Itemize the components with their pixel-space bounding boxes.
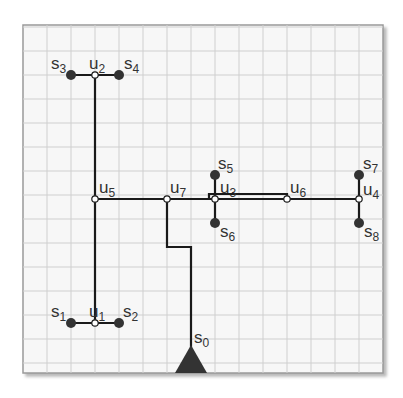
sink-node-s1 (66, 318, 76, 328)
sink-node-s8 (354, 218, 364, 228)
steiner-tree-diagram: s0s1s2s3s4s5s6s7s8u1u2u3u4u5u6u7 (0, 0, 403, 398)
sink-node-s3 (66, 70, 76, 80)
steiner-node-u3 (212, 196, 218, 202)
steiner-node-u4 (356, 196, 362, 202)
sink-node-s6 (210, 218, 220, 228)
sink-node-s4 (114, 70, 124, 80)
steiner-node-u5 (92, 196, 98, 202)
